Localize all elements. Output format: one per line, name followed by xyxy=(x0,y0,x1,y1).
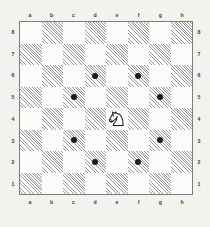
file-label-e-bottom: e xyxy=(106,198,128,206)
file-label-f-top: f xyxy=(128,11,150,19)
board-square-a2[interactable] xyxy=(20,151,42,173)
file-label-d-top: d xyxy=(84,11,106,19)
move-marker-dot-f2 xyxy=(135,159,141,165)
file-label-h-bottom: h xyxy=(171,198,193,206)
board-square-d8[interactable] xyxy=(85,22,107,44)
board-square-c3[interactable] xyxy=(63,130,85,152)
board-square-h4[interactable] xyxy=(171,108,193,130)
board-square-g2[interactable] xyxy=(149,151,171,173)
board-square-a6[interactable] xyxy=(20,65,42,87)
board-square-a3[interactable] xyxy=(20,130,42,152)
board-square-e7[interactable] xyxy=(106,44,128,66)
file-label-b-bottom: b xyxy=(41,198,63,206)
board-square-g1[interactable] xyxy=(149,173,171,195)
board-square-f7[interactable] xyxy=(128,44,150,66)
file-label-a-bottom: a xyxy=(19,198,41,206)
rank-labels-right: 8 7 6 5 4 3 2 1 xyxy=(194,21,204,195)
board-square-d2[interactable] xyxy=(85,151,107,173)
rank-label-2-right: 2 xyxy=(194,152,204,174)
board-square-g4[interactable] xyxy=(149,108,171,130)
board-square-c6[interactable] xyxy=(63,65,85,87)
board-square-c7[interactable] xyxy=(63,44,85,66)
chess-board[interactable] xyxy=(19,21,193,195)
rank-label-5-left: 5 xyxy=(8,86,18,108)
board-square-c5[interactable] xyxy=(63,87,85,109)
knight-icon[interactable] xyxy=(107,109,126,128)
board-square-d3[interactable] xyxy=(85,130,107,152)
board-square-h5[interactable] xyxy=(171,87,193,109)
board-square-e3[interactable] xyxy=(106,130,128,152)
board-square-f3[interactable] xyxy=(128,130,150,152)
rank-label-3-right: 3 xyxy=(194,130,204,152)
board-square-e6[interactable] xyxy=(106,65,128,87)
file-label-g-top: g xyxy=(150,11,172,19)
board-square-b7[interactable] xyxy=(42,44,64,66)
board-square-b8[interactable] xyxy=(42,22,64,44)
chess-diagram: a b c d e f g h 8 7 6 5 4 3 2 1 8 7 6 5 … xyxy=(0,0,210,227)
board-square-f5[interactable] xyxy=(128,87,150,109)
board-square-a4[interactable] xyxy=(20,108,42,130)
rank-label-1-left: 1 xyxy=(8,173,18,195)
file-label-c-top: c xyxy=(63,11,85,19)
board-square-d4[interactable] xyxy=(85,108,107,130)
board-square-d6[interactable] xyxy=(85,65,107,87)
move-marker-dot-d6 xyxy=(92,73,98,79)
rank-label-7-right: 7 xyxy=(194,43,204,65)
board-square-h1[interactable] xyxy=(171,173,193,195)
board-square-g3[interactable] xyxy=(149,130,171,152)
board-square-b2[interactable] xyxy=(42,151,64,173)
file-label-e-top: e xyxy=(106,11,128,19)
board-square-e2[interactable] xyxy=(106,151,128,173)
file-labels-top: a b c d e f g h xyxy=(19,11,193,19)
board-square-e4[interactable] xyxy=(106,108,128,130)
board-square-e8[interactable] xyxy=(106,22,128,44)
file-label-d-bottom: d xyxy=(84,198,106,206)
board-square-c4[interactable] xyxy=(63,108,85,130)
board-square-h2[interactable] xyxy=(171,151,193,173)
board-square-f2[interactable] xyxy=(128,151,150,173)
board-square-d5[interactable] xyxy=(85,87,107,109)
board-square-f1[interactable] xyxy=(128,173,150,195)
rank-label-2-left: 2 xyxy=(8,152,18,174)
board-square-c8[interactable] xyxy=(63,22,85,44)
board-square-a5[interactable] xyxy=(20,87,42,109)
file-labels-bottom: a b c d e f g h xyxy=(19,198,193,206)
rank-label-5-right: 5 xyxy=(194,86,204,108)
move-marker-dot-g5 xyxy=(157,94,163,100)
board-square-b1[interactable] xyxy=(42,173,64,195)
board-square-g5[interactable] xyxy=(149,87,171,109)
board-square-f8[interactable] xyxy=(128,22,150,44)
file-label-a-top: a xyxy=(19,11,41,19)
board-square-h3[interactable] xyxy=(171,130,193,152)
file-label-f-bottom: f xyxy=(128,198,150,206)
rank-label-8-left: 8 xyxy=(8,21,18,43)
board-square-f4[interactable] xyxy=(128,108,150,130)
board-square-e1[interactable] xyxy=(106,173,128,195)
board-square-d7[interactable] xyxy=(85,44,107,66)
board-square-d1[interactable] xyxy=(85,173,107,195)
board-square-a7[interactable] xyxy=(20,44,42,66)
board-square-f6[interactable] xyxy=(128,65,150,87)
board-square-c1[interactable] xyxy=(63,173,85,195)
board-square-e5[interactable] xyxy=(106,87,128,109)
board-square-b5[interactable] xyxy=(42,87,64,109)
board-square-h6[interactable] xyxy=(171,65,193,87)
rank-label-1-right: 1 xyxy=(194,173,204,195)
rank-label-7-left: 7 xyxy=(8,43,18,65)
board-square-a1[interactable] xyxy=(20,173,42,195)
file-label-c-bottom: c xyxy=(63,198,85,206)
file-label-h-top: h xyxy=(171,11,193,19)
board-square-b6[interactable] xyxy=(42,65,64,87)
board-square-g8[interactable] xyxy=(149,22,171,44)
board-square-h8[interactable] xyxy=(171,22,193,44)
board-square-h7[interactable] xyxy=(171,44,193,66)
board-square-g7[interactable] xyxy=(149,44,171,66)
board-square-a8[interactable] xyxy=(20,22,42,44)
move-marker-dot-d2 xyxy=(92,159,98,165)
board-square-b3[interactable] xyxy=(42,130,64,152)
move-marker-dot-c3 xyxy=(71,137,77,143)
move-marker-dot-g3 xyxy=(157,137,163,143)
board-square-c2[interactable] xyxy=(63,151,85,173)
board-square-g6[interactable] xyxy=(149,65,171,87)
board-square-b4[interactable] xyxy=(42,108,64,130)
